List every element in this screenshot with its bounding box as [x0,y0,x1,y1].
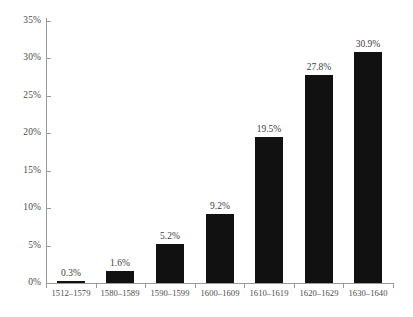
y-axis-tick-label: 0% [0,278,41,288]
bar [255,137,283,283]
bar-value-label: 5.2% [140,231,200,241]
bar-value-label: 0.3% [41,268,101,278]
bar [305,75,333,283]
bar [206,214,234,283]
bar-value-label: 30.9% [338,39,398,49]
x-axis-category-label: 1630–1640 [338,288,398,298]
y-axis-tick-label: 35% [0,16,41,26]
y-axis-tick [46,171,51,172]
bar-value-label: 9.2% [190,201,250,211]
y-axis-tick-label: 30% [0,53,41,63]
y-axis-tick [46,208,51,209]
bar-chart: 0%5%10%15%20%25%30%35% 0.3%1.6%5.2%9.2%1… [0,0,413,317]
bar-value-label: 1.6% [90,258,150,268]
bar [57,281,85,283]
bar [156,244,184,283]
y-axis-tick [46,21,51,22]
y-axis-tick [46,246,51,247]
bar-value-label: 19.5% [239,124,299,134]
bar [106,271,134,283]
y-axis-tick [46,58,51,59]
bar [354,52,382,283]
y-axis-tick-label: 10% [0,203,41,213]
y-axis-tick [46,96,51,97]
y-axis-tick [46,133,51,134]
y-axis-tick-label: 5% [0,241,41,251]
y-axis-tick-label: 25% [0,91,41,101]
bar-value-label: 27.8% [289,62,349,72]
y-axis-tick-label: 15% [0,166,41,176]
x-axis-line [46,283,393,284]
y-axis-tick-label: 20% [0,128,41,138]
